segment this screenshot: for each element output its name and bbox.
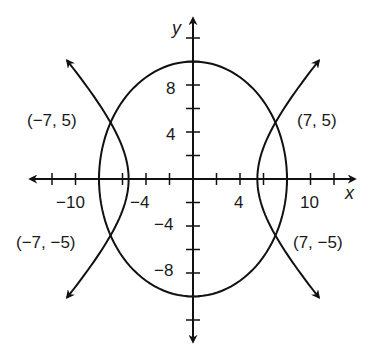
point-label-7-5: (7, 5)	[297, 111, 337, 130]
y-axis-title: y	[170, 18, 182, 38]
point-label-7-neg5: (7, −5)	[293, 233, 343, 252]
axes	[30, 18, 355, 342]
graph-ellipse-hyperbola: y x −10 −4 4 10 8 4 −4 −8 (−7, 5) (7, 5)…	[0, 0, 374, 349]
point-label-neg7-neg5: (−7, −5)	[16, 233, 76, 252]
x-tick-label-neg4: −4	[130, 193, 149, 212]
y-tick-label-4: 4	[166, 125, 175, 144]
point-label-neg7-5: (−7, 5)	[27, 111, 77, 130]
y-tick-label-neg4: −4	[154, 215, 173, 234]
x-tick-label-4: 4	[234, 193, 243, 212]
x-tick-label-neg10: −10	[56, 193, 85, 212]
x-tick-label-10: 10	[300, 193, 319, 212]
y-tick-label-neg8: −8	[154, 261, 173, 280]
y-tick-label-8: 8	[166, 79, 175, 98]
x-axis-title: x	[344, 183, 355, 203]
